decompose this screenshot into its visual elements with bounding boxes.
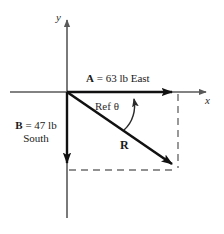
- ref-angle-label: Ref θ: [95, 100, 119, 113]
- diagram-canvas: [0, 0, 224, 234]
- vector-a-symbol: A: [86, 72, 94, 84]
- vector-b-value: = 47 lb: [23, 119, 57, 131]
- vector-b-line2: South: [8, 132, 64, 145]
- vector-a-label: A = 63 lb East: [86, 72, 150, 85]
- vector-b-line1: B = 47 lb: [8, 119, 64, 132]
- vector-b-label: B = 47 lb South: [8, 119, 64, 144]
- vector-r-arrow: [67, 92, 172, 164]
- y-axis-label: y: [56, 11, 61, 24]
- x-axis-label: x: [205, 94, 210, 107]
- vector-a-value: = 63 lb East: [94, 72, 150, 84]
- ref-angle-arc: [124, 99, 135, 130]
- vector-b-symbol: B: [15, 119, 22, 131]
- vector-diagram-figure: y x A = 63 lb East B = 47 lb South Ref θ…: [0, 0, 224, 234]
- resultant-label: R: [120, 139, 129, 153]
